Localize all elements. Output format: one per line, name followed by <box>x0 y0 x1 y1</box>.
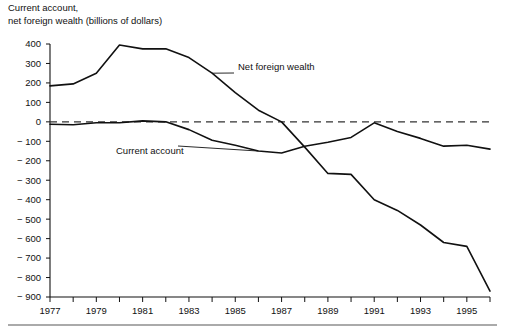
x-axis-tick-label: 1981 <box>132 305 153 316</box>
y-axis-tick-label: − 200 <box>17 155 41 166</box>
y-axis-tick-label: 100 <box>25 97 41 108</box>
y-axis-tick-label: 300 <box>25 58 41 69</box>
y-axis-tick-label: 0 <box>36 116 41 127</box>
series-label-net-foreign-wealth: Net foreign wealth <box>238 61 315 72</box>
y-axis-tick-label: 200 <box>25 77 41 88</box>
y-axis-tick-label: − 700 <box>17 252 41 263</box>
x-axis-tick-label: 1987 <box>271 305 292 316</box>
y-axis-tick-label: 400 <box>25 38 41 49</box>
y-axis-tick-label: − 500 <box>17 214 41 225</box>
y-axis-tick-label: − 300 <box>17 175 41 186</box>
series-label-current-account: Current account <box>116 145 184 156</box>
y-axis-tick-labels: 4003002001000− 100− 200− 300− 400− 500− … <box>17 38 41 302</box>
x-axis-tick-label: 1995 <box>456 305 477 316</box>
x-axis-tick-labels: 1977197919811983198519871989199119931995 <box>39 305 477 316</box>
x-axis-tick-label: 1991 <box>364 305 385 316</box>
line-chart-plot: 4003002001000− 100− 200− 300− 400− 500− … <box>0 0 505 336</box>
x-axis-tick-label: 1989 <box>317 305 338 316</box>
x-axis-tick-marks <box>50 297 490 302</box>
y-axis-tick-label: − 800 <box>17 272 41 283</box>
y-axis-tick-label: − 900 <box>17 291 41 302</box>
x-axis-tick-label: 1993 <box>410 305 431 316</box>
y-axis-tick-marks <box>46 44 50 297</box>
y-axis-tick-label: − 600 <box>17 233 41 244</box>
x-axis-tick-label: 1983 <box>178 305 199 316</box>
y-axis-tick-label: − 100 <box>17 136 41 147</box>
y-axis-tick-label: − 400 <box>17 194 41 205</box>
x-axis-tick-label: 1979 <box>86 305 107 316</box>
x-axis-tick-label: 1977 <box>39 305 60 316</box>
chart-figure: Current account,net foreign wealth (bill… <box>0 0 505 336</box>
x-axis-tick-label: 1985 <box>225 305 246 316</box>
series-line-net-foreign-wealth <box>50 45 490 291</box>
